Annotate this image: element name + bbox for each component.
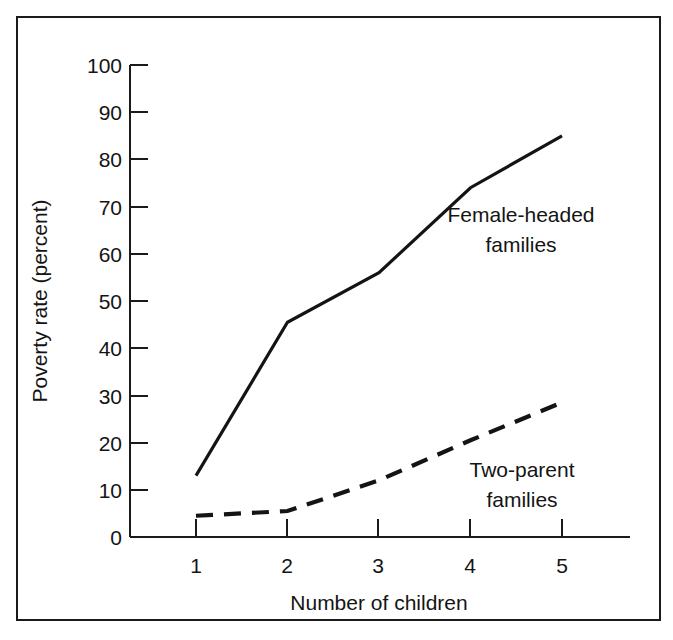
y-tick-label-100: 100 — [87, 54, 122, 77]
y-tick-label-50: 50 — [99, 290, 122, 313]
x-axis-tick-labels: 1 2 3 4 5 — [190, 554, 568, 577]
annotation-female-headed-line2: families — [485, 233, 556, 256]
y-tick-label-80: 80 — [99, 148, 122, 171]
annotation-female-headed-line1: Female-headed — [447, 203, 594, 226]
figure-root: 100 90 80 70 60 50 40 30 20 10 0 1 2 3 4… — [0, 0, 673, 640]
poverty-rate-line-chart: 100 90 80 70 60 50 40 30 20 10 0 1 2 3 4… — [0, 0, 673, 640]
x-tick-label-2: 2 — [281, 554, 293, 577]
x-tick-label-4: 4 — [464, 554, 476, 577]
y-tick-label-70: 70 — [99, 196, 122, 219]
x-tick-label-1: 1 — [190, 554, 202, 577]
y-tick-label-90: 90 — [99, 101, 122, 124]
y-tick-label-0: 0 — [110, 526, 122, 549]
x-axis-title: Number of children — [290, 591, 467, 614]
y-tick-label-10: 10 — [99, 479, 122, 502]
annotation-two-parent-line1: Two-parent — [469, 458, 574, 481]
series-annotation-two-parent-families: Two-parent families — [469, 458, 574, 511]
y-tick-label-60: 60 — [99, 243, 122, 266]
y-axis-title: Poverty rate (percent) — [28, 199, 51, 402]
x-tick-label-5: 5 — [556, 554, 568, 577]
y-axis-tick-labels: 100 90 80 70 60 50 40 30 20 10 0 — [87, 54, 122, 549]
y-tick-label-20: 20 — [99, 432, 122, 455]
annotation-two-parent-line2: families — [486, 488, 557, 511]
y-tick-label-40: 40 — [99, 337, 122, 360]
x-axis-ticks — [196, 519, 562, 537]
y-axis-ticks — [130, 65, 148, 490]
y-tick-label-30: 30 — [99, 385, 122, 408]
series-annotation-female-headed-families: Female-headed families — [447, 203, 594, 256]
series-line-female-headed-families — [196, 136, 562, 476]
x-tick-label-3: 3 — [372, 554, 384, 577]
